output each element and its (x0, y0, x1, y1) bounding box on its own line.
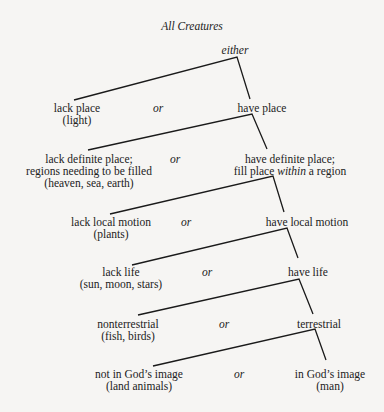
level6-left: not in God’s image (land animals) (95, 368, 183, 392)
root-label: either (222, 44, 249, 56)
level1-left: lack place (light) (54, 102, 100, 126)
level5-right: terrestrial (297, 318, 341, 330)
level2-right: have definite place; fill place within a… (234, 153, 346, 177)
level3-right: have local motion (266, 216, 348, 228)
level4-left: lack life (sun, moon, stars) (80, 266, 162, 290)
level6-right: in God’s image (man) (295, 368, 365, 392)
level5-or: or (219, 318, 229, 330)
level1-right: have place (238, 102, 287, 114)
diagram-title: All Creatures (161, 20, 222, 32)
level2-or: or (170, 153, 180, 165)
level1-or: or (153, 102, 163, 114)
level4-or: or (202, 266, 212, 278)
level2-left: lack definite place; regions needing to … (26, 153, 152, 189)
level3-or: or (181, 216, 191, 228)
level3-left: lack local motion (plants) (71, 216, 151, 240)
binary-division-diagram: All Creatures either lack place (light) … (0, 0, 384, 412)
level5-left: nonterrestrial (fish, birds) (97, 318, 158, 342)
level4-right: have life (288, 266, 328, 278)
level6-or: or (234, 368, 244, 380)
tree-lines (0, 0, 384, 412)
